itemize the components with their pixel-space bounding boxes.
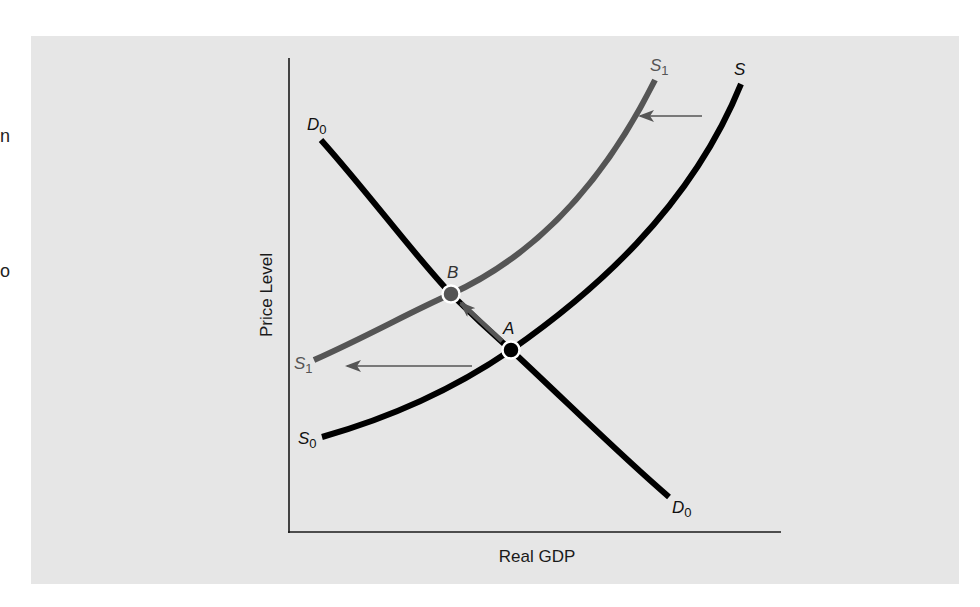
- d0-top-label: D0: [307, 115, 327, 137]
- equilibrium-point-a: [503, 342, 520, 359]
- axes: [288, 58, 781, 533]
- equilibrium-point-b: [443, 286, 460, 303]
- d0-bottom-label: D0: [672, 498, 692, 520]
- s-top-label: S: [734, 60, 746, 79]
- supply-curve-s1: [314, 80, 655, 360]
- x-axis-label: Real GDP: [499, 547, 576, 566]
- demand-curve-d0: [321, 140, 669, 497]
- point-b-label: B: [447, 263, 458, 282]
- s0-bottom-label: S0: [298, 429, 317, 451]
- y-axis-label: Price Level: [257, 253, 276, 337]
- supply-curve-s0: [322, 84, 741, 437]
- ad-as-diagram: Real GDP Price Level B A D0 D0 S0 S S1 S…: [0, 0, 980, 607]
- point-a-label: A: [502, 319, 514, 338]
- movement-arrow-a-to-b: [461, 303, 502, 341]
- s1-bottom-label: S1: [294, 354, 313, 376]
- s1-top-label: S1: [650, 56, 669, 78]
